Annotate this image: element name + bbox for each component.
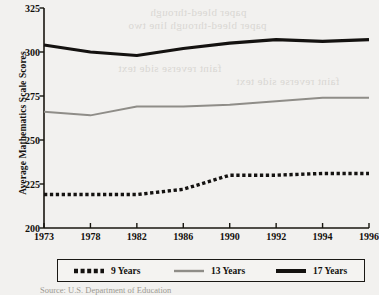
legend-item[interactable]: 9 Years <box>74 260 140 281</box>
legend-item[interactable]: 13 Years <box>174 260 245 281</box>
legend-item-label: 13 Years <box>211 266 245 276</box>
legend-item-label: 17 Years <box>313 266 347 276</box>
black-line-swatch <box>276 266 306 276</box>
source-note: Source: U.S. Department of Education <box>40 285 171 295</box>
legend-item[interactable]: 17 Years <box>276 260 347 281</box>
dotted-line-swatch <box>74 266 104 276</box>
series-line-9-years <box>44 173 369 194</box>
legend-item-label: 9 Years <box>111 266 140 276</box>
series-line-17-years <box>44 40 369 56</box>
series-line-13-years <box>44 98 369 116</box>
chart-legend: 9 Years13 Years17 Years <box>57 259 365 282</box>
gray-line-swatch <box>174 266 204 276</box>
